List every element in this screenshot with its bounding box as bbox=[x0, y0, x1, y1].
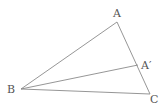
label-a-prime: A′ bbox=[140, 59, 152, 72]
segment-ac bbox=[117, 22, 150, 94]
segment-bc bbox=[21, 89, 150, 94]
triangle-diagram: A B C A′ bbox=[0, 0, 167, 109]
label-b: B bbox=[7, 83, 15, 96]
label-c: C bbox=[150, 93, 158, 106]
label-a: A bbox=[112, 7, 122, 20]
